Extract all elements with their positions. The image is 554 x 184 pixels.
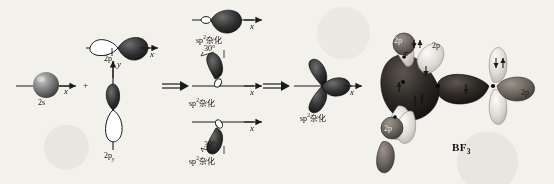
axis-label-x-sp2-bottom: x [250, 123, 254, 133]
axis-label-x-2px: x [150, 49, 154, 59]
orbital-2p-top-label: 2p [432, 41, 440, 50]
figure-canvas: 2s x + 2px x 2py y sp2杂化 x sp2杂化 x 30° s… [0, 0, 554, 184]
axis-label-x-sp2-middle: x [250, 87, 254, 97]
orbital-diagram-svg [0, 0, 554, 184]
orbital-2px-group [86, 37, 158, 60]
sp2-hybrid-set-group [294, 59, 362, 113]
sp2-hybrid-set-label: sp2杂化 [300, 112, 326, 123]
orbital-2s-label: 2s [38, 98, 45, 107]
transform-arrow-1 [162, 81, 189, 91]
orbital-2py-label: 2py [104, 151, 114, 162]
transform-arrow-2 [263, 81, 290, 91]
sp2-hybrid-middle-label: sp2杂化 [189, 97, 215, 108]
angle-label-bottom: 30° [204, 140, 215, 149]
angle-label-middle: 30° [204, 44, 215, 53]
sp2-hybrid-bottom-label: sp2杂化 [189, 155, 215, 166]
orbital-2p-right-label: 2p [521, 88, 529, 97]
axis-label-y-2py: y [117, 59, 121, 69]
axis-label-x-sp2-set: x [350, 87, 354, 97]
bf3-caption: BF3 [452, 141, 471, 156]
fluorine-upper-left-label: F [404, 51, 408, 60]
sp2-hybrid-middle-group [192, 50, 262, 88]
plus-sign: + [83, 80, 88, 90]
axis-label-x-sp2-top: x [250, 21, 254, 31]
orbital-2px-label: 2px [104, 54, 114, 65]
axis-label-x-2s: x [64, 86, 68, 96]
orbital-2p-lower-left-label: 2p [384, 124, 392, 133]
orbital-2py-group [106, 61, 123, 150]
orbital-2p-upper-left-label: 2p [394, 36, 402, 45]
